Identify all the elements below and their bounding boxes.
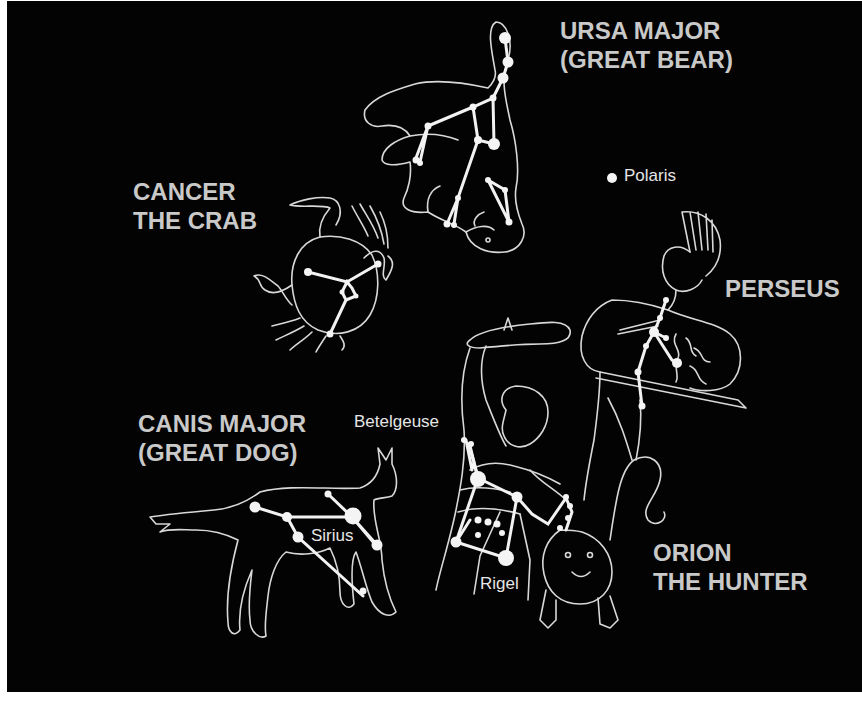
ursa-major-title-line2: (GREAT BEAR) [560,45,733,74]
orion-figure [436,318,665,628]
cancer-figure [254,197,392,352]
canis-major-title-line1: CANIS MAJOR [138,409,306,438]
orion-title-line1: ORION [653,538,808,567]
perseus-title-line1: PERSEUS [725,274,840,303]
sirius-star [345,508,362,525]
polaris-label: Polaris [624,166,676,186]
ursa-major-title-line1: URSA MAJOR [560,16,733,45]
canis-major-figure [150,448,397,637]
perseus-figure [581,212,746,500]
orion-title: ORION THE HUNTER [653,538,808,596]
ursa-major-figure [364,22,524,252]
orion-title-line2: THE HUNTER [653,567,808,596]
cancer-title-line1: CANCER [133,177,257,206]
rigel-label: Rigel [480,574,519,594]
betelgeuse-label: Betelgeuse [354,412,439,432]
ursa-major-title: URSA MAJOR (GREAT BEAR) [560,16,733,74]
canis-major-title: CANIS MAJOR (GREAT DOG) [138,409,306,467]
perseus-title: PERSEUS [725,274,840,303]
polaris-star [607,173,617,183]
sirius-label: Sirius [311,526,354,546]
betelgeuse-star [470,471,486,487]
constellation-artwork [0,0,862,711]
cancer-title-line2: THE CRAB [133,206,257,235]
canis-major-title-line2: (GREAT DOG) [138,438,306,467]
cancer-title: CANCER THE CRAB [133,177,257,235]
rigel-star [498,550,514,566]
